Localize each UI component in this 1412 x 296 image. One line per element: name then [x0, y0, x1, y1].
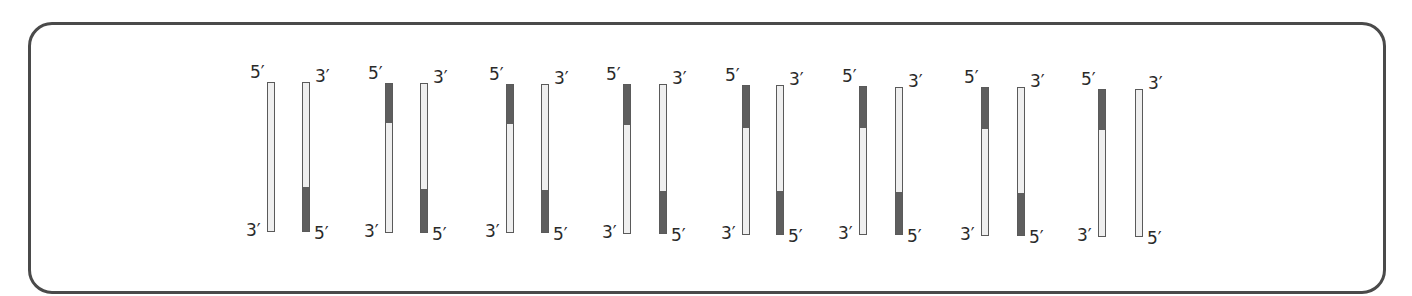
dark-segment-bottom: [777, 191, 783, 234]
three-prime-label: 3′: [672, 70, 687, 87]
dark-segment-bottom: [660, 191, 666, 233]
complementary-strand-right: [895, 87, 903, 235]
five-prime-label: 5′: [250, 64, 265, 81]
five-prime-label: 5′: [606, 66, 621, 83]
five-prime-label: 5′: [788, 228, 803, 245]
template-strand-left: [385, 83, 393, 233]
template-strand-left: [859, 86, 867, 235]
complementary-strand-right: [1135, 89, 1143, 237]
dark-segment-top: [624, 85, 630, 125]
five-prime-label: 5′: [964, 69, 979, 86]
dark-segment-top: [743, 86, 749, 128]
three-prime-label: 3′: [789, 71, 804, 88]
dark-segment-bottom: [542, 190, 548, 232]
three-prime-label: 3′: [485, 223, 500, 240]
five-prime-label: 5′: [725, 67, 740, 84]
dark-segment-bottom: [1018, 193, 1024, 235]
three-prime-label: 3′: [960, 226, 975, 243]
complementary-strand-right: [302, 82, 310, 232]
template-strand-left: [1098, 89, 1106, 237]
complementary-strand-right: [776, 85, 784, 235]
five-prime-label: 5′: [1081, 71, 1096, 88]
dark-segment-top: [860, 87, 866, 128]
five-prime-label: 5′: [432, 226, 447, 243]
template-strand-left: [742, 85, 750, 235]
five-prime-label: 5′: [368, 65, 383, 82]
dark-segment-top: [1099, 90, 1105, 130]
dark-segment-top: [507, 85, 513, 124]
complementary-strand-right: [420, 83, 428, 233]
three-prime-label: 3′: [1148, 75, 1163, 92]
three-prime-label: 3′: [246, 222, 261, 239]
template-strand-left: [623, 84, 631, 234]
five-prime-label: 5′: [314, 225, 329, 242]
three-prime-label: 3′: [364, 223, 379, 240]
dark-segment-top: [982, 88, 988, 129]
template-strand-left: [981, 87, 989, 236]
three-prime-label: 3′: [433, 69, 448, 86]
template-strand-left: [506, 84, 514, 233]
complementary-strand-right: [659, 84, 667, 234]
three-prime-label: 3′: [554, 70, 569, 87]
dark-segment-bottom: [896, 192, 902, 234]
five-prime-label: 5′: [907, 228, 922, 245]
five-prime-label: 5′: [1029, 229, 1044, 246]
three-prime-label: 3′: [908, 73, 923, 90]
five-prime-label: 5′: [1147, 230, 1162, 247]
dark-segment-bottom: [303, 187, 309, 231]
three-prime-label: 3′: [315, 68, 330, 85]
complementary-strand-right: [1017, 87, 1025, 236]
three-prime-label: 3′: [838, 225, 853, 242]
five-prime-label: 5′: [553, 226, 568, 243]
complementary-strand-right: [541, 84, 549, 233]
five-prime-label: 5′: [489, 66, 504, 83]
three-prime-label: 3′: [1030, 73, 1045, 90]
five-prime-label: 5′: [671, 227, 686, 244]
five-prime-label: 5′: [842, 68, 857, 85]
dark-segment-top: [386, 84, 392, 123]
dark-segment-bottom: [421, 189, 427, 232]
template-strand-left: [267, 82, 275, 232]
diagram-frame: [28, 22, 1386, 294]
three-prime-label: 3′: [602, 224, 617, 241]
three-prime-label: 3′: [1077, 227, 1092, 244]
three-prime-label: 3′: [721, 225, 736, 242]
